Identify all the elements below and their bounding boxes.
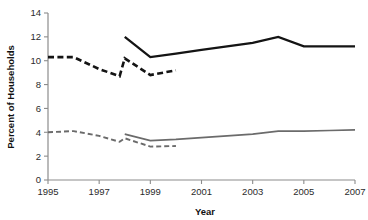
y-tick-label: 6 <box>36 103 41 114</box>
x-tick-label: 2007 <box>344 186 365 197</box>
series-line-lower-series-old-method <box>48 131 176 147</box>
x-tick-label: 1999 <box>140 186 161 197</box>
series-layer <box>48 37 355 147</box>
series-line-upper-series-old-method <box>48 57 176 76</box>
x-axis: 1995199719992001200320052007 <box>37 180 365 197</box>
y-axis: 02468101214 <box>30 7 48 185</box>
y-tick-label: 2 <box>36 151 41 162</box>
x-axis-title: Year <box>195 206 215 217</box>
x-tick-label: 1997 <box>89 186 110 197</box>
series-line-upper-series-new-method <box>125 37 355 57</box>
series-line-lower-series-new-method <box>125 130 355 141</box>
y-tick-label: 10 <box>30 55 41 66</box>
y-tick-label: 0 <box>36 174 41 185</box>
line-chart: 02468101214 1995199719992001200320052007… <box>0 0 368 220</box>
x-tick-label: 2001 <box>191 186 212 197</box>
y-tick-label: 14 <box>30 7 41 18</box>
y-axis-title: Percent of Households <box>5 45 16 148</box>
x-tick-label: 1995 <box>37 186 58 197</box>
y-tick-label: 12 <box>30 31 41 42</box>
chart-container: 02468101214 1995199719992001200320052007… <box>0 0 368 220</box>
y-tick-label: 8 <box>36 79 41 90</box>
x-tick-label: 2003 <box>242 186 263 197</box>
x-tick-label: 2005 <box>293 186 314 197</box>
y-tick-label: 4 <box>36 127 41 138</box>
